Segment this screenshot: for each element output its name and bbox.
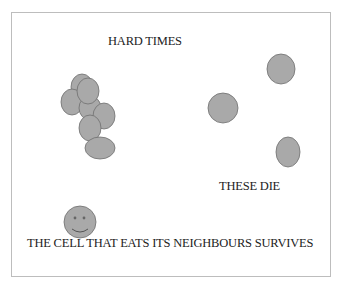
smiley-cell-icon: [64, 206, 96, 238]
cluster-cell: [85, 137, 115, 159]
survivor-label: THE CELL THAT EATS ITS NEIGHBOURS SURVIV…: [27, 236, 313, 251]
smiley-eye-icon: [74, 217, 77, 220]
dying-cell: [276, 137, 300, 167]
dying-cell: [208, 93, 238, 123]
dying-cell: [267, 54, 295, 84]
cluster-cell: [77, 78, 99, 104]
smiley-eye-icon: [83, 217, 86, 220]
dying-cells-label: THESE DIE: [219, 179, 280, 194]
title-label: HARD TIMES: [108, 34, 182, 49]
